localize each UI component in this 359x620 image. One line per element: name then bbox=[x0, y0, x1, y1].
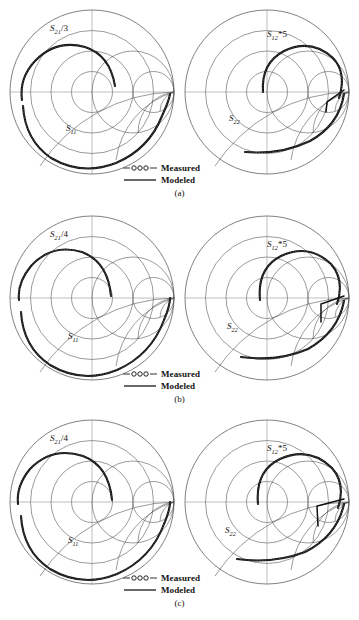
legend-row-measured: Measured bbox=[123, 368, 243, 379]
measured-line-sample bbox=[123, 369, 157, 379]
measured-line-sample bbox=[123, 163, 157, 173]
modeled-line-sample bbox=[123, 585, 157, 595]
smith-chart-c-left: S21/4 S11 bbox=[6, 416, 178, 588]
trace-label-s22: S22 bbox=[225, 526, 236, 535]
panel-a: S21/3 S11 bbox=[0, 2, 359, 207]
legend-label-measured: Measured bbox=[161, 163, 200, 173]
smith-chart-b-right-svg bbox=[181, 212, 353, 384]
smith-chart-b-left-svg bbox=[6, 212, 178, 384]
smith-chart-figure: S21/3 S11 bbox=[0, 0, 359, 620]
legend-label-modeled: Modeled bbox=[161, 585, 195, 595]
legend-label-modeled: Modeled bbox=[161, 175, 195, 185]
trace-s21-over-4 bbox=[18, 453, 112, 504]
trace-s12-times-5 bbox=[263, 46, 342, 98]
smith-grid bbox=[10, 420, 174, 584]
trace-label-s11: S11 bbox=[68, 332, 79, 341]
measured-line-sample bbox=[123, 573, 157, 583]
legend-a: Measured Modeled bbox=[123, 162, 243, 186]
trace-s22 bbox=[237, 504, 344, 560]
smith-chart-c-right: S12*5 S22 bbox=[181, 416, 353, 588]
panel-caption-b: (b) bbox=[0, 394, 359, 404]
panel-b: S21/4 S11 bbox=[0, 208, 359, 413]
modeled-line-sample bbox=[123, 381, 157, 391]
panel-caption-a: (a) bbox=[0, 188, 359, 198]
trace-label-s11: S11 bbox=[68, 536, 79, 545]
legend-row-modeled: Modeled bbox=[123, 174, 243, 185]
legend-row-measured: Measured bbox=[123, 162, 243, 173]
panel-caption-c: (c) bbox=[0, 598, 359, 608]
legend-label-modeled: Modeled bbox=[161, 381, 195, 391]
legend-label-measured: Measured bbox=[161, 369, 200, 379]
trace-label-s12-5: S12*5 bbox=[267, 30, 287, 39]
trace-label-s11: S11 bbox=[66, 124, 77, 133]
trace-label-s22: S22 bbox=[229, 114, 240, 123]
legend-row-measured: Measured bbox=[123, 572, 243, 583]
smith-chart-a-left: S21/3 S11 bbox=[6, 6, 178, 178]
trace-label-s12-5: S12*5 bbox=[267, 240, 287, 249]
trace-label-s21-4: S21/4 bbox=[50, 434, 68, 443]
smith-chart-a-left-svg bbox=[6, 6, 178, 178]
legend-c: Measured Modeled bbox=[123, 572, 243, 596]
modeled-line-sample bbox=[123, 175, 157, 185]
trace-label-s21-4: S21/4 bbox=[50, 230, 68, 239]
legend-row-modeled: Modeled bbox=[123, 380, 243, 391]
trace-label-s12-5: S12*5 bbox=[267, 444, 287, 453]
trace-s21-over-4 bbox=[19, 249, 111, 300]
smith-grid bbox=[10, 216, 174, 380]
smith-chart-c-right-svg bbox=[181, 416, 353, 588]
smith-chart-b-right: S12*5 S22 bbox=[181, 212, 353, 384]
trace-label-s21-3: S21/3 bbox=[50, 24, 68, 33]
smith-chart-a-right: S12*5 S22 bbox=[181, 6, 353, 178]
legend-label-measured: Measured bbox=[161, 573, 200, 583]
legend-row-modeled: Modeled bbox=[123, 584, 243, 595]
legend-b: Measured Modeled bbox=[123, 368, 243, 392]
trace-s22 bbox=[241, 301, 344, 358]
smith-grid bbox=[10, 10, 174, 174]
panel-c: S21/4 S11 bbox=[0, 412, 359, 617]
trace-label-s22: S22 bbox=[227, 322, 238, 331]
smith-chart-b-left: S21/4 S11 bbox=[6, 212, 178, 384]
smith-chart-c-left-svg bbox=[6, 416, 178, 588]
